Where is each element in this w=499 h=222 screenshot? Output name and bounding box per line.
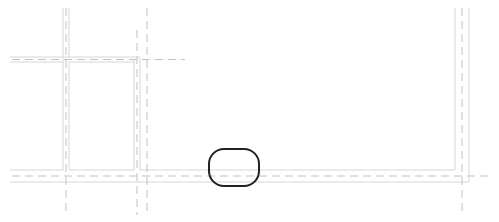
drawing-canvas bbox=[0, 0, 499, 222]
wall-lines bbox=[10, 8, 469, 182]
plan-drawing bbox=[0, 0, 499, 222]
highlight-marker bbox=[209, 149, 259, 186]
